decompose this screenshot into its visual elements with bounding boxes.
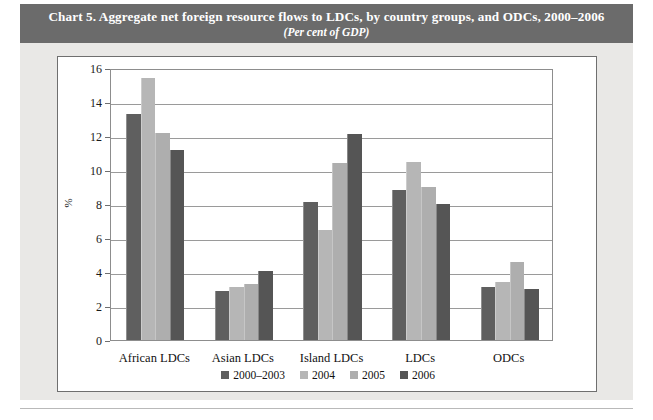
x-axis-category-label: African LDCs: [119, 351, 190, 366]
legend-swatch-icon: [400, 371, 408, 379]
x-axis-category-label: Island LDCs: [300, 351, 364, 366]
y-axis-tick-label: 14: [78, 96, 102, 111]
chart-subtitle: (Per cent of GDP): [20, 25, 633, 40]
chart-legend: 2000–2003200420052006: [58, 369, 598, 381]
legend-swatch-icon: [300, 371, 308, 379]
bar: [406, 162, 421, 341]
bar: [126, 114, 141, 340]
bar: [495, 282, 510, 340]
bar: [170, 150, 185, 340]
bar-group: [303, 70, 361, 340]
bar: [481, 287, 496, 340]
bar-group: [481, 70, 539, 340]
x-axis-category-label: LDCs: [405, 351, 435, 366]
bar: [318, 230, 333, 341]
bar: [436, 204, 451, 340]
bar: [244, 284, 259, 340]
bar-group: [126, 70, 184, 340]
x-axis-category-label: Asian LDCs: [212, 351, 274, 366]
bar: [229, 287, 244, 340]
bar: [332, 163, 347, 340]
bar: [303, 202, 318, 340]
x-axis-category-label: ODCs: [493, 351, 524, 366]
bar: [510, 262, 525, 340]
bar: [421, 187, 436, 340]
bar: [392, 190, 407, 340]
chart-title-banner: Chart 5. Aggregate net foreign resource …: [20, 4, 633, 43]
bar: [155, 133, 170, 340]
bar: [347, 134, 362, 340]
plot-area: [110, 69, 553, 341]
bar: [524, 289, 539, 340]
legend-item[interactable]: 2006: [400, 369, 435, 381]
y-axis-tick-mark: [105, 341, 110, 342]
y-axis-tick-label: 8: [78, 198, 102, 213]
y-axis-tick-label: 16: [78, 62, 102, 77]
bar: [215, 291, 230, 340]
y-axis-tick-label: 6: [78, 232, 102, 247]
legend-item[interactable]: 2005: [350, 369, 385, 381]
legend-item[interactable]: 2004: [300, 369, 335, 381]
bar-group: [392, 70, 450, 340]
legend-label: 2006: [412, 369, 435, 381]
y-axis-title: %: [62, 193, 74, 213]
chart-figure: Chart 5. Aggregate net foreign resource …: [0, 0, 653, 420]
footer-divider: [20, 408, 633, 409]
y-axis-tick-label: 4: [78, 266, 102, 281]
legend-item[interactable]: 2000–2003: [221, 369, 285, 381]
legend-label: 2004: [312, 369, 335, 381]
y-axis-tick-label: 10: [78, 164, 102, 179]
chart-panel: % 0246810121416 African LDCsAsian LDCsIs…: [57, 56, 597, 392]
bar: [141, 78, 156, 340]
chart-title: Chart 5. Aggregate net foreign resource …: [20, 8, 633, 25]
legend-swatch-icon: [350, 371, 358, 379]
y-axis-tick-label: 0: [78, 334, 102, 349]
y-axis-tick-label: 2: [78, 300, 102, 315]
legend-swatch-icon: [221, 371, 229, 379]
bar-group: [215, 70, 273, 340]
chart-card: Chart 5. Aggregate net foreign resource …: [20, 4, 633, 400]
y-axis-tick-label: 12: [78, 130, 102, 145]
legend-label: 2000–2003: [233, 369, 285, 381]
bar: [258, 271, 273, 340]
legend-label: 2005: [362, 369, 385, 381]
